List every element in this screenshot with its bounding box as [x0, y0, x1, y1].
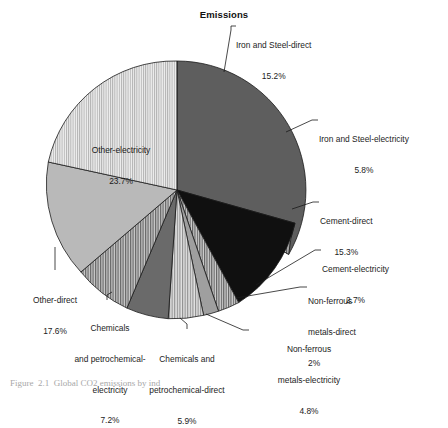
callout-non-ferrous-metals-direct-line1: Non-ferrous [308, 296, 356, 306]
callout-iron-steel-direct: Iron and Steel-direct 15.2% [236, 20, 311, 102]
inside-label-other-electricity-value: 23.7% [69, 176, 173, 186]
callout-other-direct-title: Other-direct [8, 295, 102, 305]
callout-non-ferrous-metals-electricity-value: 4.8% [250, 406, 368, 416]
leader-non-ferrous-metals-electricity [206, 314, 249, 330]
leader-iron-steel-electricity [286, 120, 318, 132]
inside-label-other-electricity: Other-electricity 23.7% [69, 124, 173, 207]
callout-chemicals-petrochemical-electricity-value: 7.2% [50, 415, 170, 425]
figure-caption: Figure 2.1 Global CO2 emissions by ind [10, 378, 160, 388]
callout-other-direct-value: 17.6% [8, 326, 102, 336]
callout-iron-steel-electricity-title: Iron and Steel-electricity [319, 134, 409, 144]
callout-cement-direct-title: Cement-direct [320, 216, 373, 226]
callout-iron-steel-electricity: Iron and Steel-electricity 5.8% [319, 114, 409, 196]
callout-non-ferrous-metals-electricity: Non-ferrous metals-electricity 4.8% [250, 324, 368, 428]
leader-iron-steel-direct [224, 26, 236, 72]
callout-iron-steel-direct-value: 15.2% [236, 71, 311, 81]
callout-iron-steel-direct-title: Iron and Steel-direct [236, 40, 311, 50]
leader-chemicals-petrochemical-direct [180, 318, 187, 329]
callout-cement-electricity-title: Cement-electricity [322, 264, 389, 274]
inside-label-other-electricity-title: Other-electricity [69, 145, 173, 155]
callout-non-ferrous-metals-electricity-line1: Non-ferrous [250, 344, 368, 354]
callout-other-direct: Other-direct 17.6% [8, 275, 102, 357]
callout-non-ferrous-metals-electricity-line2: metals-electricity [250, 375, 368, 385]
callout-iron-steel-electricity-value: 5.8% [319, 165, 409, 175]
